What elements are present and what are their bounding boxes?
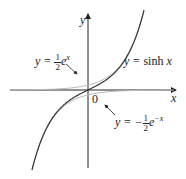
half-exp-label: y = 12ex (35, 53, 70, 72)
x-axis-label: x (171, 92, 176, 104)
half-exp-curve (10, 14, 143, 90)
sinh-label: y = sinh x (124, 55, 172, 67)
y-axis-label: y (80, 14, 85, 26)
pointer-arrow-neg-exp (105, 105, 115, 115)
sinh-figure: y x 0 y = sinh x y = 12ex y = −12e−x (0, 0, 186, 179)
neg-half-exp-label: y = −12e−x (115, 114, 163, 133)
plot-canvas (0, 0, 186, 179)
origin-label: 0 (92, 93, 98, 105)
